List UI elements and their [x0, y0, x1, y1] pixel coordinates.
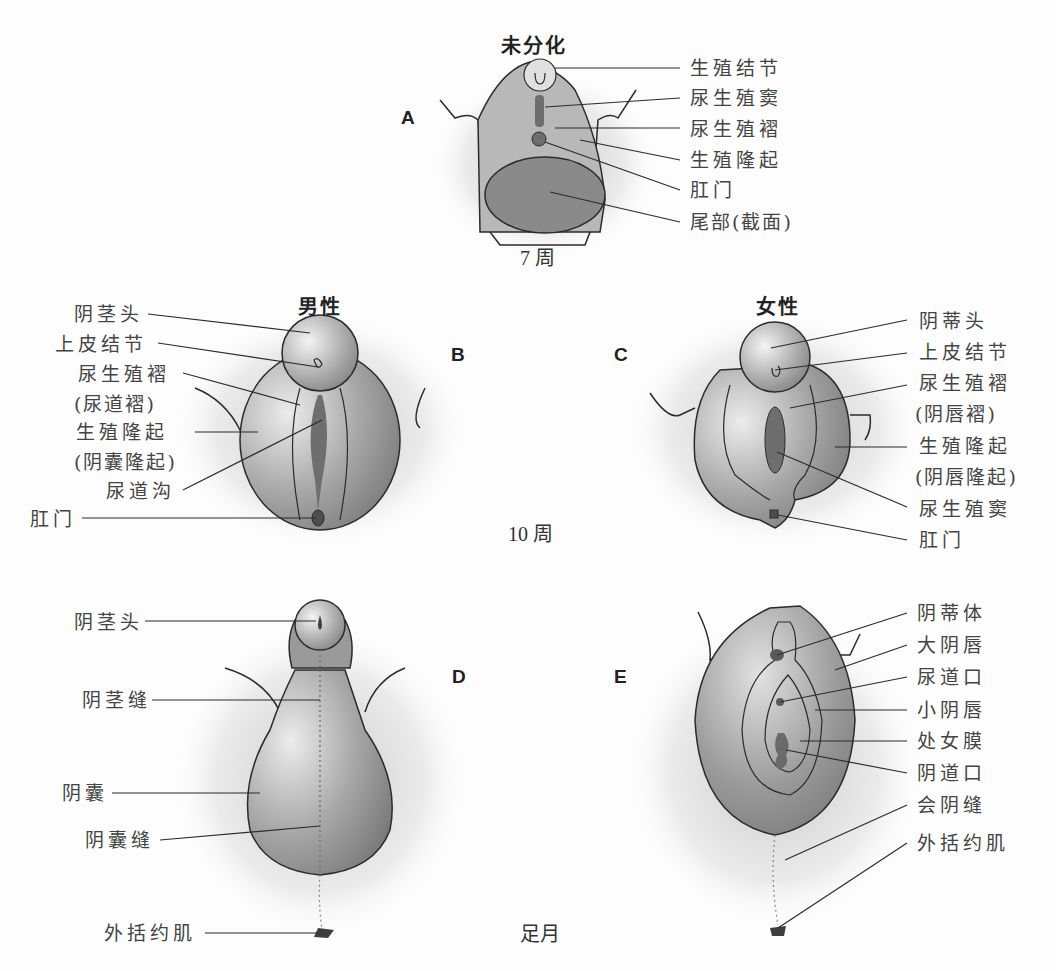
- panel-a-title: 未分化: [501, 30, 567, 59]
- panel-a-letter: A: [401, 107, 415, 129]
- panel-e-illustration: [625, 606, 925, 936]
- label-labial-fold: (阴唇褶): [915, 402, 997, 426]
- label-glans-penis: 阴茎头: [74, 610, 143, 634]
- label-external-sphincter: 外括约肌: [917, 831, 1009, 855]
- panel-c-illustration: [625, 310, 925, 550]
- label-tail-section: 尾部(截面): [690, 210, 793, 234]
- label-scrotum: 阴囊: [62, 781, 108, 805]
- label-epithelial-tag: 上皮结节: [919, 340, 1011, 364]
- label-scrotal-raphe: 阴囊缝: [85, 828, 154, 852]
- label-clitoral-body: 阴蒂体: [917, 601, 986, 625]
- panel-e-letter: E: [614, 666, 627, 688]
- panel-c-title: 女性: [756, 291, 800, 320]
- label-labium-minus: 小阴唇: [917, 698, 986, 722]
- label-glans-penis: 阴茎头: [74, 302, 143, 326]
- diagram-canvas: 未分化 A 生殖结节 尿生殖窦 尿生殖褶 生殖隆起 肛门 尾部(截面) 7 周 …: [0, 0, 1056, 971]
- label-genital-tubercle: 生殖结节: [690, 56, 782, 80]
- label-genital-swelling: 生殖隆起: [919, 434, 1011, 458]
- panel-c-letter: C: [614, 344, 628, 366]
- label-labioscrotal-swelling: (阴唇隆起): [915, 465, 1018, 489]
- label-glans-clitoris: 阴蒂头: [919, 309, 988, 333]
- label-urethral-fold: (尿道褶): [74, 392, 156, 416]
- label-penile-raphe: 阴茎缝: [82, 688, 151, 712]
- label-epithelial-tag: 上皮结节: [55, 332, 147, 356]
- label-scrotal-swelling: (阴囊隆起): [74, 450, 177, 474]
- label-genital-swelling: 生殖隆起: [690, 148, 782, 172]
- label-perineal-raphe: 会阴缝: [917, 793, 986, 817]
- panel-b-title: 男性: [298, 291, 342, 320]
- label-genital-swelling: 生殖隆起: [76, 420, 168, 444]
- label-urethral-orifice: 尿道口: [917, 665, 986, 689]
- panel-a-illustration: [430, 59, 680, 260]
- age-10-weeks: 10 周: [508, 518, 553, 547]
- label-hymen: 处女膜: [917, 729, 986, 753]
- panel-d-letter: D: [452, 666, 466, 688]
- label-urogenital-sinus: 尿生殖窦: [690, 86, 782, 110]
- age-7-weeks: 7 周: [520, 242, 555, 271]
- panel-b-letter: B: [451, 344, 465, 366]
- label-external-sphincter: 外括约肌: [104, 921, 196, 945]
- label-urogenital-fold: 尿生殖褶: [690, 117, 782, 141]
- label-urogenital-fold: 尿生殖褶: [78, 362, 170, 386]
- label-anus: 肛门: [690, 178, 736, 202]
- label-urogenital-fold: 尿生殖褶: [919, 371, 1011, 395]
- age-term: 足月: [520, 918, 560, 947]
- label-urogenital-sinus: 尿生殖窦: [919, 497, 1011, 521]
- label-anus: 肛门: [919, 528, 965, 552]
- label-labium-majus: 大阴唇: [917, 633, 986, 657]
- label-urethral-groove: 尿道沟: [106, 479, 175, 503]
- label-anus: 肛门: [30, 507, 76, 531]
- label-vaginal-orifice: 阴道口: [917, 761, 986, 785]
- panel-d-illustration: [112, 600, 470, 940]
